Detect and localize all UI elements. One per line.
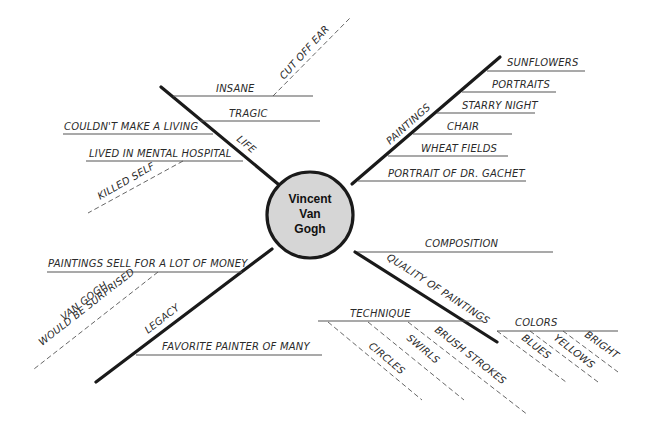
mind-map: LIFE INSANE CUT OFF EAR TRAGIC COULDN'T … [0,0,650,429]
node-sunflowers: SUNFLOWERS [507,57,579,68]
node-brush-strokes-line [408,322,528,415]
node-brush-strokes: BRUSH STROKES [433,324,509,387]
node-swirls: SWIRLS [405,332,442,366]
node-couldnt-make-living: COULDN'T MAKE A LIVING [64,121,198,132]
branch-paintings-label: PAINTINGS [384,101,433,146]
node-circles-line [328,322,422,400]
node-portraits: PORTRAITS [492,79,550,90]
node-composition: COMPOSITION [425,238,499,249]
node-technique: TECHNIQUE [350,308,411,319]
node-cut-off-ear-line [273,18,350,96]
node-colors: COLORS [515,317,558,328]
center-label-line-2: Van [299,207,320,221]
center-label-line-3: Gogh [294,222,325,236]
center-node: Vincent Van Gogh [267,172,353,258]
branch-paintings: PAINTINGS SUNFLOWERS PORTRAITS STARRY NI… [352,57,585,184]
node-lived-mental-hospital: LIVED IN MENTAL HOSPITAL [89,148,232,159]
node-chair: CHAIR [447,121,479,132]
node-insane: INSANE [216,83,255,94]
node-favorite-painter: FAVORITE PAINTER OF MANY [162,341,310,352]
node-cut-off-ear: CUT OFF EAR [277,23,331,81]
node-paintings-sell: PAINTINGS SELL FOR A LOT OF MONEY [48,258,248,269]
node-starry-night: STARRY NIGHT [462,100,538,111]
node-portrait-dr-gachet: PORTRAIT OF DR. GACHET [388,168,525,179]
branch-quality: COMPOSITION QUALITY OF PAINTINGS TECHNIQ… [318,238,622,415]
center-label-line-1: Vincent [288,192,331,206]
node-wheat-fields: WHEAT FIELDS [421,143,498,154]
node-would-be-surprised: WOULD BE SURPRISED [36,266,136,348]
branch-legacy: LEGACY PAINTINGS SELL FOR A LOT OF MONEY… [34,249,322,382]
node-tragic: TRAGIC [229,108,268,119]
branch-life-line [161,87,278,184]
